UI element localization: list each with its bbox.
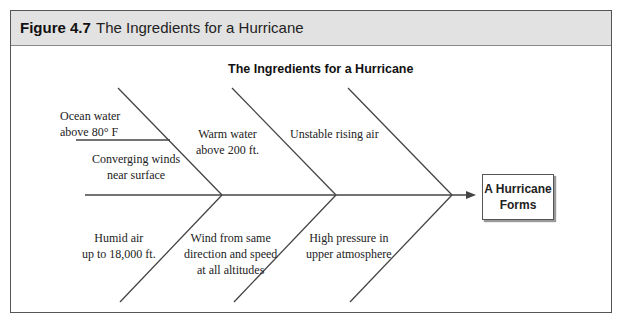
result-box: A Hurricane Forms [482, 174, 554, 220]
cause-unstable-air: Unstable rising air [290, 126, 379, 142]
cause-converging-winds: Converging winds near surface [92, 151, 180, 183]
arrow-head-icon [466, 191, 476, 199]
cause-wind-same-direction: Wind from same direction and speed at al… [184, 230, 277, 278]
cause-ocean-water: Ocean water above 80° F [60, 108, 120, 140]
cause-warm-water: Warm water above 200 ft. [196, 126, 259, 158]
cause-humid-air: Humid air up to 18,000 ft. [82, 230, 156, 262]
cause-high-pressure: High pressure in upper atmosphere [306, 230, 392, 262]
diagram-title: The Ingredients for a Hurricane [228, 62, 413, 76]
